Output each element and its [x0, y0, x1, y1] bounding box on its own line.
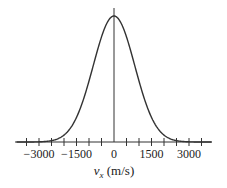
- x-tick-label: −1500: [61, 147, 92, 161]
- x-tick-label: 1500: [140, 147, 164, 161]
- x-axis-label-units: (m/s): [104, 163, 135, 178]
- x-tick-label: 0: [111, 147, 117, 161]
- x-tick-label: −3000: [24, 147, 55, 161]
- x-axis-label: vx (m/s): [94, 163, 134, 180]
- x-tick-label: 3000: [177, 147, 201, 161]
- x-tick-labels: −3000−1500015003000: [24, 147, 201, 161]
- velocity-distribution-chart: −3000−1500015003000 vx (m/s): [0, 0, 227, 188]
